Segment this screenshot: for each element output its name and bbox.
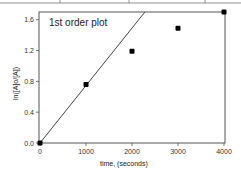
x-axis: 01000200030004000 (38, 143, 232, 155)
data-point (38, 141, 43, 146)
top-frame-lines (0, 0, 241, 3)
x-tick-label: 2000 (124, 148, 140, 155)
plot-title: 1st order plot (49, 17, 108, 28)
x-tick-label: 0 (38, 148, 42, 155)
data-point (84, 82, 89, 87)
y-tick-label: 1.6 (24, 16, 34, 23)
fit-line (40, 12, 145, 143)
y-tick-label: 1.2 (24, 47, 34, 54)
data-point (130, 49, 135, 54)
y-axis: 0.00.40.81.21.6 (24, 16, 39, 146)
first-order-plot-chart: 0.00.40.81.21.6 01000200030004000 1st or… (0, 0, 241, 179)
x-tick-label: 4000 (216, 148, 232, 155)
data-points (38, 10, 227, 146)
plot-area (39, 12, 225, 143)
data-point (222, 10, 227, 15)
y-tick-label: 0.8 (24, 78, 34, 85)
x-tick-label: 3000 (170, 148, 186, 155)
y-tick-label: 0.4 (24, 109, 34, 116)
y-axis-title: ln([A]o/[A]) (12, 67, 20, 100)
y-tick-label: 0.0 (24, 140, 34, 147)
x-tick-label: 1000 (78, 148, 94, 155)
data-point (176, 26, 181, 31)
x-axis-title: time, (seconds) (100, 160, 148, 168)
